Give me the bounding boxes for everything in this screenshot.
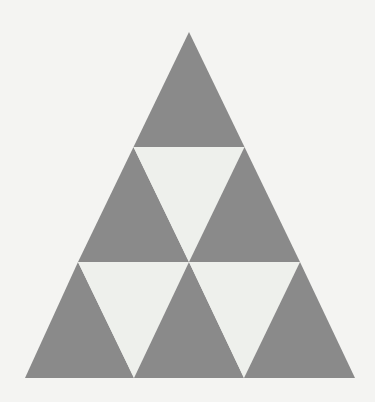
figure-canvas: A large equilateral triangle divided int… (0, 0, 375, 402)
triangle-figure (0, 0, 375, 402)
